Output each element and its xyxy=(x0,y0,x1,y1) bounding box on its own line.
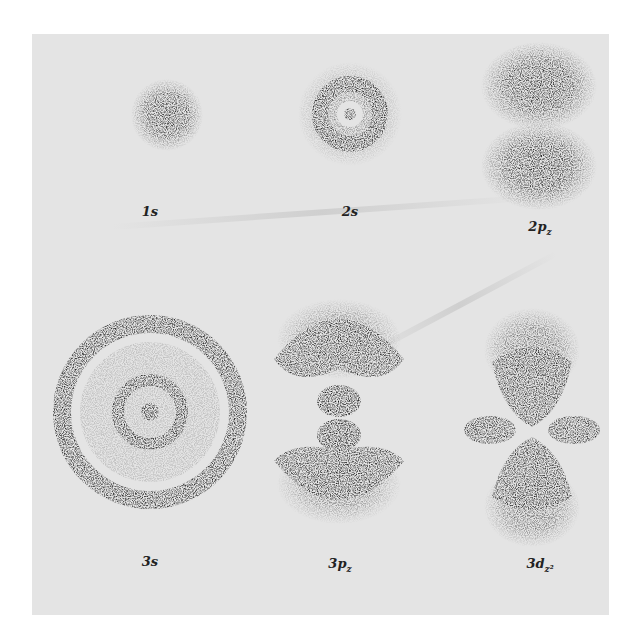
orbital-3dz2-plot xyxy=(462,302,602,552)
orbital-figure-panel: 1s 2s 2pz 3s xyxy=(32,34,609,615)
orbital-3pz-plot xyxy=(264,289,414,529)
orbital-3pz-label: 3pz xyxy=(310,556,370,574)
orbital-3s-label: 3s xyxy=(120,554,180,569)
orbital-2pz-label: 2pz xyxy=(510,219,570,237)
orbital-1s-label: 1s xyxy=(120,204,180,219)
orbital-1s-plot xyxy=(112,60,222,170)
orbital-3s-plot xyxy=(50,312,250,512)
orbital-2s-plot xyxy=(290,54,410,174)
orbital-2s-label: 2s xyxy=(320,204,380,219)
orbital-3dz2-label: 3dz² xyxy=(510,556,570,574)
orbital-2pz-plot xyxy=(477,34,602,214)
